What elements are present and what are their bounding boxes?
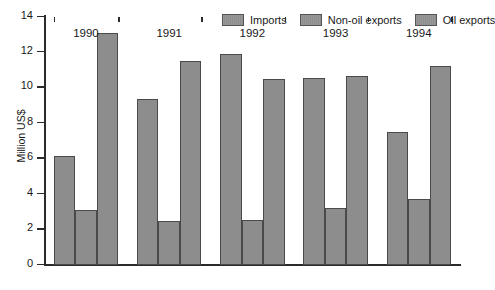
y-axis-tick-label: 0 <box>27 257 33 270</box>
bar <box>408 199 430 265</box>
bar <box>325 208 347 265</box>
y-axis-tick-label: 10 <box>21 79 33 92</box>
bar <box>180 61 202 265</box>
bar <box>137 99 159 266</box>
y-axis-tick: 14 <box>37 16 44 18</box>
x-axis-tick-label: 1990 <box>73 26 99 40</box>
x-axis-tick-label: 1994 <box>406 26 432 40</box>
y-axis-tick-label: 4 <box>27 186 33 199</box>
bar <box>75 210 97 265</box>
bar <box>387 132 409 265</box>
y-axis-tick-label: 6 <box>27 150 33 163</box>
y-axis-tick: 10 <box>37 86 44 88</box>
y-axis-tick: 8 <box>37 122 44 124</box>
bar <box>54 156 76 265</box>
y-axis-tick: 2 <box>37 228 44 230</box>
x-axis-tick <box>368 17 370 22</box>
x-axis-tick-label: 1992 <box>240 26 266 40</box>
x-axis-tick <box>118 17 120 22</box>
y-axis-tick: 4 <box>37 193 44 195</box>
bar <box>158 221 180 265</box>
y-axis-tick-label: 8 <box>27 115 33 128</box>
y-axis-tick-label: 12 <box>21 44 33 57</box>
x-axis-tick-label: 1991 <box>156 26 182 40</box>
y-axis-tick-label: 2 <box>27 221 33 234</box>
bar <box>430 66 452 265</box>
bar <box>346 76 368 265</box>
x-axis-tick <box>201 17 203 22</box>
bar <box>242 220 264 265</box>
x-axis-tick <box>451 17 453 22</box>
y-axis-tick: 0 <box>37 264 44 266</box>
bar <box>220 54 242 265</box>
plot-area: 02468101214 19901991199219931994 <box>44 17 460 265</box>
y-axis-title: Million US$ <box>15 91 27 181</box>
x-axis-tick <box>54 17 56 22</box>
y-axis-tick: 6 <box>37 157 44 159</box>
x-axis-tick <box>285 17 287 22</box>
bar <box>263 79 285 265</box>
bar <box>303 78 325 265</box>
bar <box>97 33 119 265</box>
x-axis-tick-label: 1993 <box>323 26 349 40</box>
y-axis-tick: 12 <box>37 51 44 53</box>
y-axis-tick-label: 14 <box>21 9 33 22</box>
